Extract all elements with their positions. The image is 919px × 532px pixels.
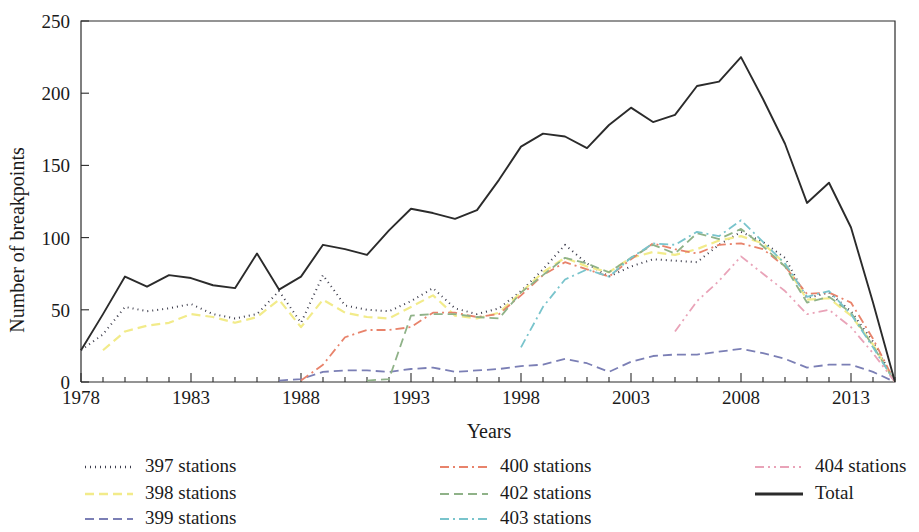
y-tick-label: 100 xyxy=(42,228,71,249)
legend-398[interactable]: 398 stations xyxy=(85,482,236,503)
x-tick-label: 2003 xyxy=(612,387,650,408)
y-tick-label: 0 xyxy=(61,372,71,393)
y-tick-labels: 050100150200250 xyxy=(42,11,71,393)
series-line-total xyxy=(81,57,895,382)
plot-border xyxy=(81,21,895,382)
series-line-403-stations xyxy=(521,220,895,382)
line-chart: 19781983198819931998200320082013 0501001… xyxy=(0,0,919,532)
axis-ticks xyxy=(81,21,895,382)
series-line-400-stations xyxy=(301,243,895,382)
x-tick-label: 1998 xyxy=(502,387,540,408)
legend-397[interactable]: 397 stations xyxy=(85,455,236,476)
legend: 397 stations398 stations399 stations400 … xyxy=(85,455,906,528)
y-axis-title: Number of breakpoints xyxy=(6,147,29,333)
legend-402[interactable]: 402 stations xyxy=(440,482,591,503)
x-tick-label: 1988 xyxy=(282,387,320,408)
series-line-402-stations xyxy=(367,229,895,382)
y-tick-label: 150 xyxy=(42,155,71,176)
x-tick-label: 2013 xyxy=(832,387,870,408)
plot-frame xyxy=(81,21,895,382)
legend-400[interactable]: 400 stations xyxy=(440,455,591,476)
y-tick-label: 250 xyxy=(42,11,71,32)
legend-399-label: 399 stations xyxy=(145,507,236,528)
y-tick-label: 200 xyxy=(42,83,71,104)
x-tick-label: 1983 xyxy=(172,387,210,408)
x-tick-labels: 19781983198819931998200320082013 xyxy=(62,387,870,408)
legend-403[interactable]: 403 stations xyxy=(440,507,591,528)
x-tick-label: 2008 xyxy=(722,387,760,408)
legend-400-label: 400 stations xyxy=(500,455,591,476)
legend-402-label: 402 stations xyxy=(500,482,591,503)
legend-399[interactable]: 399 stations xyxy=(85,507,236,528)
legend-total[interactable]: Total xyxy=(755,482,854,503)
legend-403-label: 403 stations xyxy=(500,507,591,528)
y-tick-label: 50 xyxy=(51,300,70,321)
x-tick-label: 1993 xyxy=(392,387,430,408)
legend-398-label: 398 stations xyxy=(145,482,236,503)
legend-404[interactable]: 404 stations xyxy=(755,455,906,476)
x-axis-title: Years xyxy=(467,420,512,442)
legend-397-label: 397 stations xyxy=(145,455,236,476)
figure-root: 19781983198819931998200320082013 0501001… xyxy=(0,0,919,532)
data-series xyxy=(81,57,895,382)
legend-404-label: 404 stations xyxy=(815,455,906,476)
legend-total-label: Total xyxy=(815,482,854,503)
